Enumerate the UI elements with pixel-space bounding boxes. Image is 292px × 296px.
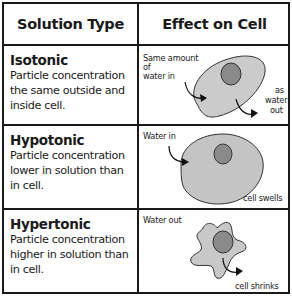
solution-type-table: Solution Type Effect on Cell Isotonic Pa…: [2, 2, 290, 294]
hypotonic-effect: Water in cell swells: [139, 126, 290, 208]
cell-swells-label: cell swells: [243, 194, 282, 203]
water-in-label: water in: [143, 72, 175, 81]
hypertonic-cell: Hypertonic Particle concentration higher…: [10, 216, 136, 277]
hypertonic-title: Hypertonic: [10, 216, 136, 232]
header-effect-on-cell: Effect on Cell: [139, 4, 290, 44]
cell-shrinks-label: cell shrinks: [235, 282, 279, 291]
hypertonic-description: Particle concentration higher in solutio…: [10, 232, 136, 277]
water-in-label: Water in: [143, 132, 176, 141]
hypertonic-effect: Water out cell shrinks: [139, 210, 290, 296]
header-solution-type: Solution Type: [4, 4, 137, 44]
isotonic-title: Isotonic: [10, 52, 136, 68]
hypotonic-title: Hypotonic: [10, 132, 136, 148]
same-amount-label: Same amount: [143, 54, 198, 63]
hypotonic-cell: Hypotonic Particle concentration lower i…: [10, 132, 136, 193]
water-label: water: [265, 96, 287, 105]
out-label: out: [270, 106, 283, 115]
water-out-label: Water out: [143, 216, 181, 225]
isotonic-effect: Same amount of water in as water out: [139, 46, 290, 124]
as-label: as: [275, 86, 284, 95]
isotonic-description: Particle concentration the same outside …: [10, 68, 136, 113]
isotonic-cell: Isotonic Particle concentration the same…: [10, 52, 136, 113]
hypotonic-description: Particle concentration lower in solution…: [10, 148, 136, 193]
